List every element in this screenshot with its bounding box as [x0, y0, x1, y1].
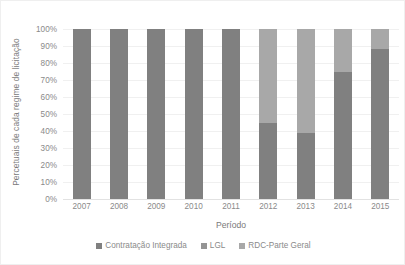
legend-swatch-icon: [96, 243, 102, 249]
x-axis-tick-label: 2009: [138, 202, 175, 216]
bar-segment[interactable]: [334, 72, 352, 200]
x-axis-tick-label: 2011: [212, 202, 249, 216]
bar-segment[interactable]: [297, 133, 315, 199]
y-axis-tick-label: 80%: [41, 59, 57, 68]
chart-container: Percetuais de cada regime de licitação 0…: [0, 0, 405, 265]
stacked-bar[interactable]: [334, 29, 352, 199]
bar-segment[interactable]: [185, 29, 203, 199]
plot-area: [63, 29, 399, 199]
y-axis-title-text: Percetuais de cada regime de licitação: [11, 38, 21, 186]
y-axis-tick-label: 40%: [41, 127, 57, 136]
bar-segment[interactable]: [147, 29, 165, 199]
bar-group: [250, 29, 287, 199]
x-axis-title: Período: [63, 220, 399, 230]
bars-layer: [63, 29, 399, 199]
y-axis-tick-label: 90%: [41, 42, 57, 51]
y-axis-tick-label: 10%: [41, 178, 57, 187]
bar-segment[interactable]: [222, 29, 240, 199]
x-axis-tick-label: 2007: [63, 202, 100, 216]
stacked-bar[interactable]: [73, 29, 91, 199]
bar-group: [212, 29, 249, 199]
legend-item[interactable]: LGL: [201, 241, 225, 250]
y-axis-tick-label: 0%: [45, 195, 57, 204]
chart-legend: Contratação IntegradaLGLRDC-Parte Geral: [1, 241, 405, 250]
gridline: [63, 199, 399, 200]
bar-segment[interactable]: [259, 123, 277, 200]
legend-item[interactable]: Contratação Integrada: [96, 241, 186, 250]
x-axis-tick-label: 2013: [287, 202, 324, 216]
bar-segment[interactable]: [110, 29, 128, 199]
y-axis-tick-label: 30%: [41, 144, 57, 153]
legend-item[interactable]: RDC-Parte Geral: [239, 241, 310, 250]
stacked-bar[interactable]: [222, 29, 240, 199]
bar-segment[interactable]: [371, 29, 389, 49]
y-axis-tick-labels: 0%10%20%30%40%50%60%70%80%90%100%: [25, 23, 59, 205]
bar-group: [63, 29, 100, 199]
x-axis-tick-labels: 200720082009201020112012201320142015: [63, 202, 399, 216]
bar-segment[interactable]: [371, 49, 389, 199]
x-axis-tick-label: 2015: [362, 202, 399, 216]
y-axis-tick-label: 20%: [41, 161, 57, 170]
y-axis-tick-label: 70%: [41, 76, 57, 85]
stacked-bar[interactable]: [110, 29, 128, 199]
x-axis-tick-label: 2012: [250, 202, 287, 216]
stacked-bar[interactable]: [297, 29, 315, 199]
y-axis-tick-label: 50%: [41, 110, 57, 119]
x-axis-tick-label: 2008: [100, 202, 137, 216]
bar-segment[interactable]: [73, 29, 91, 199]
stacked-bar[interactable]: [371, 29, 389, 199]
bar-segment[interactable]: [259, 29, 277, 123]
bar-group: [287, 29, 324, 199]
y-axis-tick-label: 60%: [41, 93, 57, 102]
x-axis-tick-label: 2010: [175, 202, 212, 216]
bar-group: [100, 29, 137, 199]
legend-swatch-icon: [201, 243, 207, 249]
legend-swatch-icon: [239, 243, 245, 249]
bar-group: [175, 29, 212, 199]
bar-group: [138, 29, 175, 199]
legend-label: LGL: [210, 241, 225, 250]
stacked-bar[interactable]: [147, 29, 165, 199]
stacked-bar[interactable]: [185, 29, 203, 199]
y-axis-tick-label: 100%: [36, 25, 57, 34]
stacked-bar[interactable]: [259, 29, 277, 199]
y-axis-title: Percetuais de cada regime de licitação: [7, 19, 25, 205]
bar-segment[interactable]: [297, 29, 315, 133]
x-axis-tick-label: 2014: [324, 202, 361, 216]
legend-label: Contratação Integrada: [105, 241, 186, 250]
bar-segment[interactable]: [334, 29, 352, 72]
bar-group: [362, 29, 399, 199]
legend-label: RDC-Parte Geral: [248, 241, 310, 250]
bar-group: [324, 29, 361, 199]
